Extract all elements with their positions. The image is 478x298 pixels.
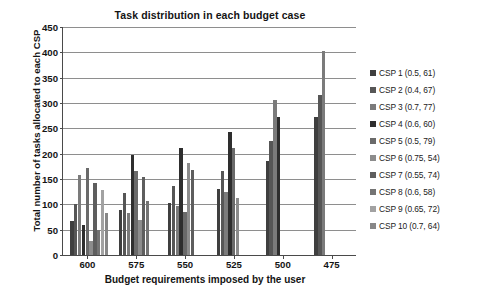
x-tick-label: 475 — [324, 259, 340, 270]
legend-swatch-icon — [370, 172, 376, 178]
bar — [146, 201, 149, 255]
y-tick-label: 100 — [42, 199, 58, 210]
bar-group — [266, 27, 305, 255]
legend-label: CSP 2 (0.4, 67) — [379, 85, 435, 95]
bar-group — [168, 27, 207, 255]
legend-item[interactable]: CSP 10 (0.7, 64) — [370, 217, 476, 234]
legend-label: CSP 10 (0.7, 64) — [379, 221, 440, 231]
legend-item[interactable]: CSP 7 (0.55, 74) — [370, 166, 476, 183]
x-tick-label: 575 — [128, 259, 144, 270]
y-tick-label: 400 — [42, 47, 58, 58]
y-axis-title: Total number of tasks allocated to each … — [31, 11, 42, 251]
legend-swatch-icon — [370, 155, 376, 161]
bar — [236, 198, 239, 255]
y-tick-label: 450 — [42, 22, 58, 33]
legend-item[interactable]: CSP 6 (0.75, 54) — [370, 149, 476, 166]
legend-swatch-icon — [370, 206, 376, 212]
x-axis-title: Budget requirements imposed by the user — [40, 274, 370, 285]
legend-swatch-icon — [370, 223, 376, 229]
chart-container: Task distribution in each budget case To… — [0, 0, 478, 298]
legend-swatch-icon — [370, 87, 376, 93]
legend-item[interactable]: CSP 9 (0.65, 72) — [370, 200, 476, 217]
bar-group — [119, 27, 158, 255]
legend-swatch-icon — [370, 189, 376, 195]
bar-group — [314, 27, 353, 255]
legend-swatch-icon — [370, 121, 376, 127]
y-tick-label: 350 — [42, 72, 58, 83]
y-tick-label: 0 — [53, 250, 58, 261]
legend-label: CSP 7 (0.55, 74) — [379, 170, 440, 180]
bar-group — [217, 27, 256, 255]
bars-layer — [63, 27, 356, 255]
y-tick-label: 50 — [47, 224, 58, 235]
bar-group — [70, 27, 109, 255]
x-tick-label: 525 — [226, 259, 242, 270]
legend-swatch-icon — [370, 138, 376, 144]
legend-label: CSP 9 (0.65, 72) — [379, 204, 440, 214]
bar — [191, 170, 194, 255]
legend-item[interactable]: CSP 5 (0.5, 79) — [370, 132, 476, 149]
x-tick-label: 500 — [275, 259, 291, 270]
legend-label: CSP 3 (0.7, 77) — [379, 102, 435, 112]
legend-label: CSP 5 (0.5, 79) — [379, 136, 435, 146]
legend-label: CSP 6 (0.75, 54) — [379, 153, 440, 163]
y-tick-label: 300 — [42, 98, 58, 109]
legend-label: CSP 4 (0.6, 60) — [379, 119, 435, 129]
bar — [322, 51, 325, 255]
y-tick-label: 250 — [42, 123, 58, 134]
bar — [105, 213, 108, 255]
plot-area: 050100150200250300350400450 600575550525… — [62, 27, 356, 256]
legend-item[interactable]: CSP 2 (0.4, 67) — [370, 81, 476, 98]
y-tick-label: 200 — [42, 148, 58, 159]
y-tick-label: 150 — [42, 174, 58, 185]
legend-label: CSP 8 (0.6, 58) — [379, 187, 435, 197]
y-tick-mark — [60, 255, 63, 256]
x-tick-label: 600 — [79, 259, 95, 270]
legend-item[interactable]: CSP 1 (0.5, 61) — [370, 64, 476, 81]
legend-item[interactable]: CSP 4 (0.6, 60) — [370, 115, 476, 132]
legend-label: CSP 1 (0.5, 61) — [379, 68, 435, 78]
bar — [277, 117, 280, 255]
legend-item[interactable]: CSP 3 (0.7, 77) — [370, 98, 476, 115]
x-tick-label: 550 — [177, 259, 193, 270]
legend: CSP 1 (0.5, 61)CSP 2 (0.4, 67)CSP 3 (0.7… — [370, 64, 476, 234]
legend-swatch-icon — [370, 104, 376, 110]
legend-item[interactable]: CSP 8 (0.6, 58) — [370, 183, 476, 200]
legend-swatch-icon — [370, 70, 376, 76]
chart-title: Task distribution in each budget case — [60, 9, 360, 21]
